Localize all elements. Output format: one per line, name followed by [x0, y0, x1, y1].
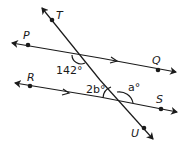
parallel-mark-rs	[62, 89, 69, 95]
label-u: U	[131, 127, 139, 140]
label-q: Q	[152, 54, 161, 67]
angle-label-2b: 2b°	[86, 83, 105, 96]
point-p	[26, 43, 31, 48]
point-r	[28, 84, 33, 89]
label-s: S	[156, 93, 163, 106]
label-r: R	[27, 71, 35, 84]
angle-label-a: a°	[128, 81, 140, 94]
angle-label-142: 142°	[56, 64, 83, 77]
point-t	[50, 18, 55, 23]
label-p: P	[23, 29, 30, 42]
point-s	[159, 107, 164, 112]
label-t: T	[56, 9, 64, 22]
point-u	[142, 126, 147, 131]
geometry-diagram: T P Q R S U 142° 2b° a°	[0, 0, 185, 147]
point-q	[156, 68, 161, 73]
